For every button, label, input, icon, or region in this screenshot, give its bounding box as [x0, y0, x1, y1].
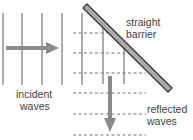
incident-label-line2: waves [19, 100, 50, 112]
incident-label-line1: incident [16, 88, 52, 100]
reflected-label-line1: reflected [147, 103, 187, 115]
reflected-label-line2: waves [146, 115, 177, 127]
reflected-direction-arrow [104, 76, 116, 132]
wave-reflection-diagram: straight barrier incident waves reflecte… [0, 0, 193, 140]
barrier-label-line1: straight [126, 16, 161, 28]
incident-direction-arrow [6, 42, 59, 54]
barrier-label-line2: barrier [126, 28, 157, 40]
